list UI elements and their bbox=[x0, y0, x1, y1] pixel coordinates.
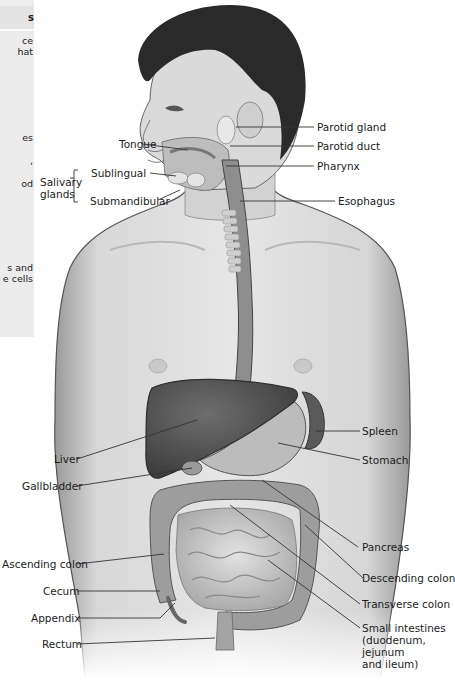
label-cecum: Cecum bbox=[43, 585, 79, 597]
label-parotid-duct: Parotid duct bbox=[317, 140, 380, 152]
label-ascending-colon: Ascending colon bbox=[2, 558, 88, 570]
rectum-shape bbox=[216, 612, 234, 650]
head bbox=[138, 5, 306, 190]
label-submandibular: Submandibular bbox=[90, 195, 170, 207]
label-pancreas: Pancreas bbox=[362, 541, 409, 553]
label-transverse-colon: Transverse colon bbox=[362, 598, 450, 610]
label-gallbladder: Gallbladder bbox=[22, 480, 83, 492]
label-appendix: Appendix bbox=[31, 612, 80, 624]
label-esophagus: Esophagus bbox=[338, 195, 395, 207]
label-spleen: Spleen bbox=[362, 425, 398, 437]
label-salivary-glands: Salivary glands bbox=[40, 176, 82, 200]
label-rectum: Rectum bbox=[42, 638, 82, 650]
label-parotid-gland: Parotid gland bbox=[317, 121, 386, 133]
parotid-gland-shape bbox=[217, 116, 235, 144]
label-small-intestines: Small intestines (duodenum, jejunum and … bbox=[362, 622, 446, 670]
small-intestine-shape bbox=[176, 508, 297, 611]
label-descending-colon: Descending colon bbox=[362, 572, 455, 584]
label-sublingual: Sublingual bbox=[91, 167, 146, 179]
label-tongue: Tongue bbox=[119, 138, 157, 150]
label-liver: Liver bbox=[54, 453, 80, 465]
label-stomach: Stomach bbox=[362, 454, 408, 466]
label-pharynx: Pharynx bbox=[317, 160, 360, 172]
